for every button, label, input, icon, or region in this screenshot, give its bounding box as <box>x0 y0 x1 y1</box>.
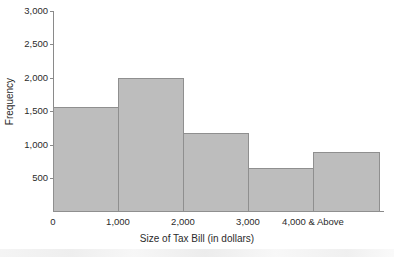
y-tick-label-3000: 3,000 <box>24 6 48 16</box>
x-tick-label-3000: 3,000 <box>236 216 260 227</box>
bar-2000-to-3000 <box>183 133 249 212</box>
x-axis-title: Size of Tax Bill (in dollars) <box>0 233 394 244</box>
bar-0-to-1000 <box>53 107 119 212</box>
bar-3000-to-4000 <box>248 168 314 212</box>
y-tick-label-1500: 1,500 <box>24 106 48 116</box>
y-tick-label-500: 500 <box>32 173 48 183</box>
y-tick-label-2500: 2,500 <box>24 39 48 49</box>
plot-area <box>53 11 380 212</box>
bar-1000-to-2000 <box>118 78 184 212</box>
scan-artifact <box>0 249 394 257</box>
bar-4000-and-above <box>313 152 380 212</box>
y-axis-title: Frequency <box>4 57 15 147</box>
y-tick-label-2000: 2,000 <box>24 73 48 83</box>
y-tick-label-1000: 1,000 <box>24 140 48 150</box>
x-tick-label-0: 0 <box>50 216 55 227</box>
x-tick-label-2000: 2,000 <box>171 216 195 227</box>
x-tick-label-4000-and-above: 4,000 & Above <box>282 216 344 227</box>
x-tick-label-1000: 1,000 <box>106 216 130 227</box>
histogram-figure: 3,000 2,500 2,000 1,500 1,000 500 0 1,00… <box>0 0 394 257</box>
